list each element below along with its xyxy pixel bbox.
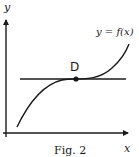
curve-label: y = f(x) (95, 26, 134, 37)
diagram-canvas: y x D y = f(x) Fig. 2 (0, 0, 139, 157)
x-axis-label: x (124, 142, 131, 155)
y-axis-label: y (3, 1, 11, 14)
figure-caption: Fig. 2 (54, 144, 86, 157)
point-d-marker (73, 76, 78, 81)
point-d-label: D (70, 60, 79, 74)
function-curve (17, 44, 129, 127)
figure-2-diagram: y x D y = f(x) Fig. 2 (0, 0, 139, 157)
